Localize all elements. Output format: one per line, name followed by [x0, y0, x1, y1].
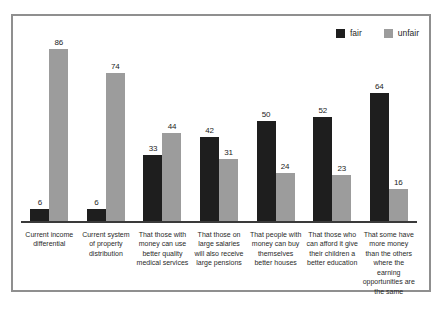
bar-unfair — [219, 159, 238, 221]
bar-fair — [30, 209, 49, 221]
category-label: That those who can afford it give their … — [304, 230, 361, 296]
bar-value-label: 52 — [318, 106, 327, 115]
bar-column-unfair: 31 — [219, 148, 238, 221]
bar-column-fair: 52 — [313, 106, 332, 221]
bar-column-fair: 64 — [370, 82, 389, 221]
bar-group: 4231 — [191, 126, 248, 221]
plot-area: 68667433444231502452236416 — [21, 16, 417, 221]
category-label: That some have more money than the other… — [360, 230, 417, 296]
bar-group: 6416 — [360, 82, 417, 221]
bar-value-label: 16 — [394, 178, 403, 187]
bar-column-fair: 50 — [257, 110, 276, 221]
bar-column-unfair: 16 — [389, 178, 408, 221]
bar-unfair — [49, 49, 68, 221]
bar-fair — [370, 93, 389, 221]
bar-value-label: 6 — [38, 198, 42, 207]
bar-value-label: 6 — [94, 198, 98, 207]
category-label: That those on large salaries will also r… — [191, 230, 248, 296]
category-label: Current income differential — [21, 230, 78, 296]
category-label: Current system of property distribution — [78, 230, 135, 296]
bar-value-label: 23 — [337, 164, 346, 173]
bar-value-label: 86 — [55, 38, 64, 47]
bar-column-unfair: 23 — [332, 164, 351, 221]
x-axis-line — [21, 221, 417, 223]
bar-value-label: 50 — [262, 110, 271, 119]
bar-value-label: 24 — [281, 162, 290, 171]
bar-unfair — [276, 173, 295, 221]
category-label: That people with money can buy themselve… — [247, 230, 304, 296]
bar-value-label: 33 — [149, 144, 158, 153]
bar-group: 5223 — [304, 106, 361, 221]
bar-column-fair: 42 — [200, 126, 219, 221]
bar-value-label: 42 — [205, 126, 214, 135]
bar-column-fair: 6 — [87, 198, 106, 221]
bar-value-label: 74 — [111, 62, 120, 71]
bar-column-fair: 6 — [30, 198, 49, 221]
chart-frame: fairunfair 68667433444231502452236416 Cu… — [11, 14, 431, 292]
bar-unfair — [106, 73, 125, 221]
bar-value-label: 31 — [224, 148, 233, 157]
bar-column-unfair: 74 — [106, 62, 125, 221]
bar-column-unfair: 44 — [162, 122, 181, 221]
bar-column-fair: 33 — [143, 144, 162, 221]
bar-unfair — [332, 175, 351, 221]
bar-column-unfair: 86 — [49, 38, 68, 221]
bar-group: 5024 — [247, 110, 304, 221]
bar-fair — [87, 209, 106, 221]
category-labels: Current income differentialCurrent syste… — [21, 230, 417, 296]
bar-group: 686 — [21, 38, 78, 221]
chart-canvas: fairunfair 68667433444231502452236416 Cu… — [0, 0, 446, 313]
bar-fair — [143, 155, 162, 221]
bar-fair — [313, 117, 332, 221]
bar-unfair — [389, 189, 408, 221]
bar-group: 674 — [78, 62, 135, 221]
bar-value-label: 44 — [168, 122, 177, 131]
bar-fair — [257, 121, 276, 221]
bar-unfair — [162, 133, 181, 221]
bar-group: 3344 — [134, 122, 191, 221]
bar-value-label: 64 — [375, 82, 384, 91]
category-label: That those with money can use better qua… — [134, 230, 191, 296]
bar-column-unfair: 24 — [276, 162, 295, 221]
bar-fair — [200, 137, 219, 221]
